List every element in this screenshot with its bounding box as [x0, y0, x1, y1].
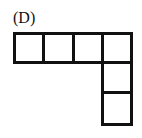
- square-r1-c3: [101, 61, 133, 94]
- square-r0-c3: [101, 32, 133, 64]
- option-label: (D): [13, 9, 35, 27]
- square-r2-c3: [101, 91, 133, 126]
- square-r0-c0: [13, 32, 45, 64]
- square-r0-c1: [42, 32, 75, 64]
- square-r0-c2: [72, 32, 104, 64]
